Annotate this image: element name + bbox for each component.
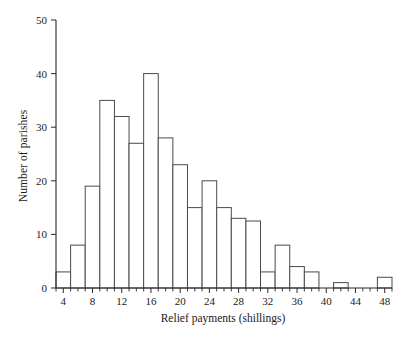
histogram-bar: [304, 272, 319, 288]
x-tick-label: 32: [262, 295, 273, 307]
histogram-bar: [275, 245, 290, 288]
y-tick-label: 0: [42, 282, 48, 294]
histogram-bar: [85, 186, 100, 288]
x-tick-label: 48: [379, 295, 391, 307]
y-tick-label: 20: [36, 175, 48, 187]
y-tick-label: 30: [36, 121, 48, 133]
histogram-bar: [231, 218, 246, 288]
y-tick-label: 10: [36, 228, 48, 240]
y-tick-label: 40: [36, 68, 48, 80]
x-tick-label: 20: [175, 295, 187, 307]
chart-svg: 4812162024283236404448 01020304050: [0, 0, 406, 343]
x-tick-label: 44: [350, 295, 362, 307]
histogram-bar: [129, 143, 144, 288]
histogram-bar: [173, 165, 188, 288]
histogram-bar: [144, 74, 159, 288]
histogram-bar: [334, 283, 349, 288]
x-tick-labels: 4812162024283236404448: [61, 295, 391, 307]
x-tick-label: 16: [145, 295, 157, 307]
y-tick-label: 50: [36, 14, 48, 26]
histogram-bar: [377, 277, 392, 288]
x-tick-label: 36: [292, 295, 304, 307]
x-tick-label: 8: [90, 295, 96, 307]
y-tick-labels: 01020304050: [36, 14, 48, 294]
histogram-bar: [261, 272, 276, 288]
x-tick-label: 28: [233, 295, 245, 307]
plot-area: 4812162024283236404448 01020304050: [0, 0, 406, 343]
histogram-bar: [158, 138, 173, 288]
histogram-bar: [202, 181, 217, 288]
histogram-bar: [71, 245, 86, 288]
histogram-bar: [56, 272, 71, 288]
histogram-bar: [217, 208, 232, 288]
histogram-chart: Number of parishes Relief payments (shil…: [0, 0, 406, 343]
histogram-bar: [246, 221, 261, 288]
x-tick-label: 12: [116, 295, 127, 307]
histogram-bar: [114, 116, 129, 288]
histogram-bar: [187, 208, 202, 288]
bars-group: [56, 74, 392, 288]
histogram-bar: [290, 267, 305, 288]
x-tick-label: 4: [61, 295, 67, 307]
x-tick-label: 24: [204, 295, 216, 307]
histogram-bar: [100, 100, 115, 288]
x-tick-label: 40: [321, 295, 333, 307]
